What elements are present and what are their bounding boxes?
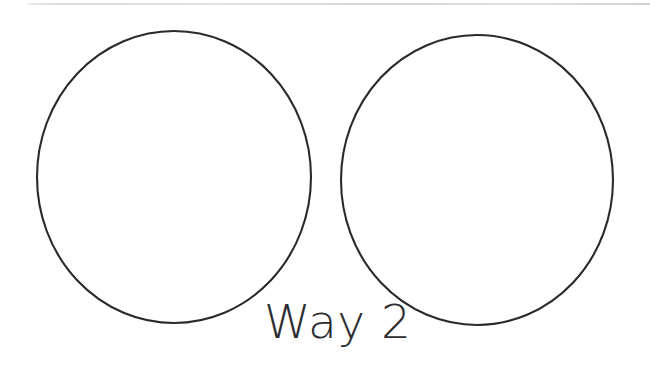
- circle-left: [37, 31, 311, 323]
- diagram-caption: Way 2: [264, 298, 411, 345]
- circle-right: [341, 35, 613, 325]
- diagram-canvas: Way 2: [0, 0, 650, 391]
